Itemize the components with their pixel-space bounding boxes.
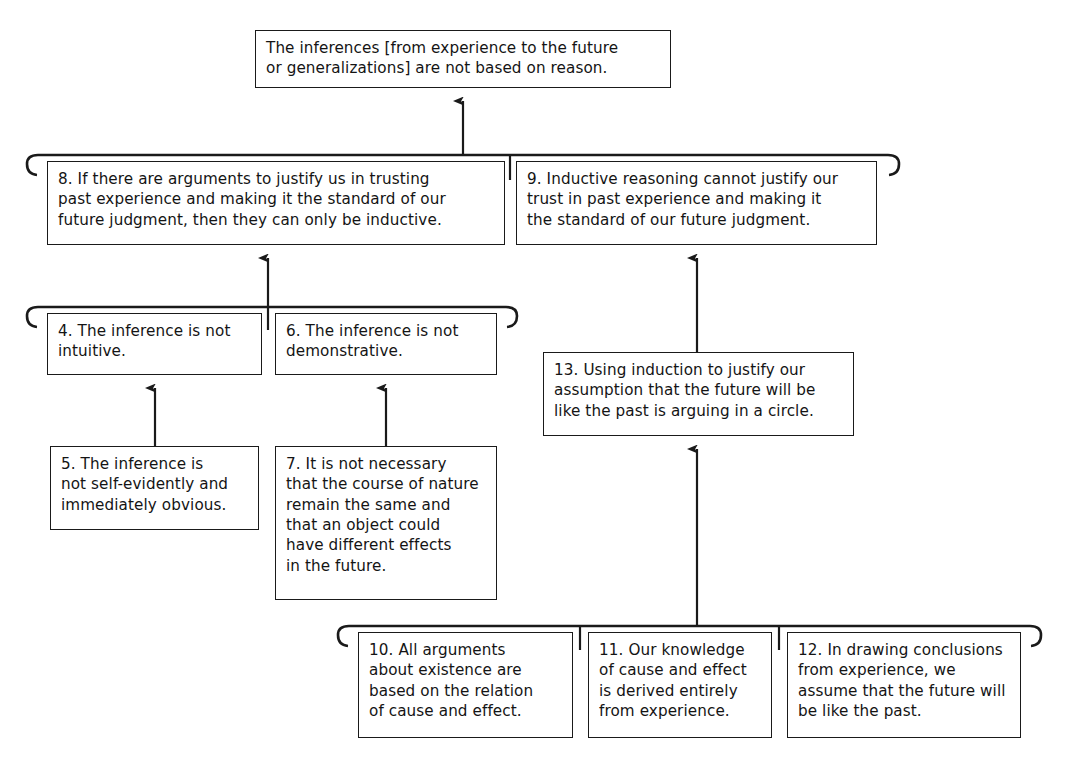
statement-box-n4: 4. The inference is not intuitive. [47,313,262,375]
statement-box-n13: 13. Using induction to justify our assum… [543,352,854,436]
argument-diagram: The inferences [from experience to the f… [0,0,1070,767]
statement-box-n12: 12. In drawing conclusions from experien… [787,632,1021,738]
statement-box-n8: 8. If there are arguments to justify us … [47,161,505,245]
statement-box-n5: 5. The inference is not self-evidently a… [50,446,259,530]
statement-box-conclusion: The inferences [from experience to the f… [255,30,671,88]
statement-box-n10: 10. All arguments about existence are ba… [358,632,573,738]
statement-box-n9: 9. Inductive reasoning cannot justify ou… [516,161,877,245]
statement-box-n11: 11. Our knowledge of cause and effect is… [588,632,772,738]
statement-box-n6: 6. The inference is not demonstrative. [275,313,497,375]
statement-box-n7: 7. It is not necessary that the course o… [275,446,497,600]
